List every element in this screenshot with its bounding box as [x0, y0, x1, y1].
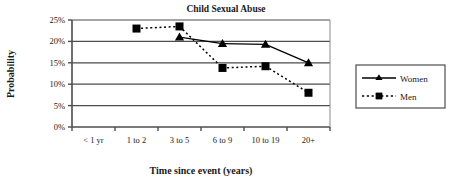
- series-segment: [137, 26, 180, 28]
- series-men: [133, 22, 313, 96]
- gridlines: [72, 20, 330, 106]
- x-tick-label: < 1 yr: [83, 135, 104, 145]
- y-tick-label: 20%: [49, 36, 65, 46]
- square-marker-icon: [219, 64, 227, 72]
- x-tick-labels: < 1 yr1 to 23 to 56 to 910 to 1920+: [83, 135, 315, 145]
- x-tick-label: 1 to 2: [127, 135, 146, 145]
- y-tick-labels: 0%5%10%15%20%25%: [49, 15, 65, 132]
- legend-label-men: Men: [400, 92, 417, 102]
- square-marker-icon: [133, 25, 141, 33]
- x-tick-label: 10 to 19: [252, 135, 280, 145]
- x-tick-label: 20+: [302, 135, 316, 145]
- x-axis-title: Time since event (years): [150, 165, 253, 177]
- legend-label-women: Women: [400, 74, 428, 84]
- chart-title: Child Sexual Abuse: [186, 4, 265, 14]
- y-tick-label: 10%: [49, 79, 65, 89]
- series-segment: [223, 66, 266, 68]
- y-tick-label: 5%: [54, 101, 65, 111]
- y-tick-label: 15%: [49, 58, 65, 68]
- chart-figure: Child Sexual Abuse Probability Time sinc…: [0, 0, 453, 183]
- triangle-marker-icon: [304, 58, 313, 66]
- y-tick-label: 0%: [54, 122, 65, 132]
- series-segment: [180, 26, 223, 68]
- triangle-marker-icon: [175, 33, 184, 41]
- series-segment: [180, 37, 223, 43]
- legend-box: [356, 65, 445, 108]
- square-marker-icon: [305, 89, 313, 97]
- series-segment: [266, 44, 309, 62]
- square-marker-icon: [376, 93, 383, 100]
- series-women: [175, 33, 313, 67]
- chart-legend: Women Men: [356, 65, 445, 108]
- series-segment: [266, 66, 309, 93]
- y-axis-title: Probability: [5, 50, 16, 98]
- x-tick-label: 6 to 9: [213, 135, 232, 145]
- series-segment: [223, 44, 266, 45]
- child-sexual-abuse-line-chart: Child Sexual Abuse Probability Time sinc…: [0, 0, 453, 183]
- y-tick-label: 25%: [49, 15, 65, 25]
- square-marker-icon: [176, 22, 184, 30]
- square-marker-icon: [262, 62, 270, 70]
- x-tick-label: 3 to 5: [170, 135, 189, 145]
